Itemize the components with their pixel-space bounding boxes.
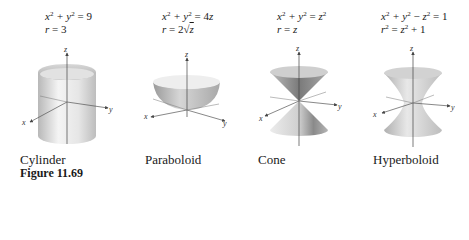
x-axis-label: x — [372, 110, 377, 119]
cone-caption: Cone — [258, 152, 285, 168]
z-axis-label: z — [63, 45, 68, 54]
x-axis-label: x — [21, 118, 26, 127]
x-axis-label: x — [143, 112, 148, 121]
z-axis-label: z — [184, 50, 189, 59]
z-axis-label: z — [295, 44, 300, 53]
cone-figure: z y x — [258, 44, 342, 146]
y-axis-label: y — [450, 103, 455, 112]
paraboloid-figure: z y x — [143, 50, 227, 128]
x-axis-label: x — [258, 114, 263, 123]
z-axis-label: z — [409, 44, 414, 53]
cylinder-figure: z y x — [21, 45, 113, 144]
y-axis-label: y — [222, 119, 227, 128]
paraboloid-caption: Paraboloid — [145, 152, 201, 168]
figure-label: Figure 11.69 — [20, 166, 83, 181]
hyperboloid-caption: Hyperboloid — [373, 152, 439, 168]
y-axis-label: y — [337, 102, 342, 111]
hyperboloid-figure: z y x — [372, 44, 455, 147]
y-axis-label: y — [108, 105, 113, 114]
